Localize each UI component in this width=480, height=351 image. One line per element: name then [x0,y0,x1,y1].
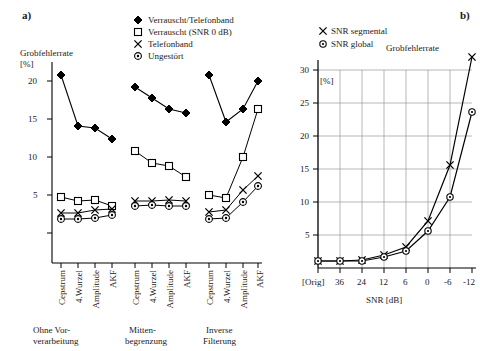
panel-b-ylabel-line2: [%] [320,76,334,86]
panel-a-ylabel-line1: Grobfehlerrate [20,48,73,58]
legend-item-verrauscht-snr0: Verrauscht (SNR 0 dB) [148,27,232,37]
panel-b-xtick-orig: [Orig] [302,277,325,287]
group-caption-3-line2: Filterung [203,336,236,346]
panel-b-xtick-0: 0 [425,277,430,287]
legend-item-snr-global: SNR global [331,39,373,49]
xtick-g2-akf: AKF [182,270,192,288]
panel-a-tag: a) [22,10,31,20]
panel-b-xtick-minus12: -12 [463,277,475,287]
group-caption-1-line2: verarbeitung [33,336,78,346]
legend-item-telefonband: Telefonband [148,39,193,49]
xtick-g1-akf: AKF [108,270,118,288]
panel-b-tag: b) [460,10,470,20]
panel-b-ytick-20: 20 [300,131,309,141]
panel-a-ytick-20: 20 [28,76,37,86]
chart-panel-a: a) Grobfehlerrate [%] Verrauscht/Telefon… [0,0,300,351]
panel-a-ytick-5: 5 [33,190,38,200]
panel-b-xtick-36: 36 [335,277,344,287]
panel-b-ylabel-line1: Grobfehlerrate [386,43,439,53]
panel-b-ytick-10: 10 [300,197,309,207]
chart-panel-b: b) SNR segmental SNR global Grobfehlerra… [300,0,480,351]
panel-b-xtick-6: 6 [403,277,408,287]
legend-item-snr-segmental: SNR segmental [331,26,387,36]
legend-item-ungestoert: Ungestört [148,51,184,61]
panel-b-xtick-minus6: -6 [444,277,452,287]
group-caption-3-line1: Inverse [206,325,233,335]
panel-b-ytick-15: 15 [300,164,309,174]
xtick-g3-akf: AKF [255,270,265,288]
legend-item-verrauscht-telefonband: Verrauscht/Telefonband [148,15,234,25]
xtick-g3-cepstrum: Cepstrum [205,270,215,305]
group-caption-1-line1: Ohne Vor- [33,325,70,335]
panel-b-xlabel: SNR [dB] [366,295,402,305]
panel-b-xtick-12: 12 [379,277,388,287]
xtick-g1-cepstrum: Cepstrum [57,270,67,305]
xtick-g2-amplitude: Amplitude [165,270,175,309]
panel-b-ytick-5: 5 [305,230,310,240]
xtick-g2-cepstrum: Cepstrum [131,270,141,305]
xtick-g1-4wurzel: 4.Wurzel [74,270,84,303]
xtick-g3-4wurzel: 4.Wurzel [222,270,232,303]
panel-b-xtick-24: 24 [357,277,366,287]
panel-a-ytick-10: 10 [28,152,37,162]
panel-b-ytick-25: 25 [300,98,309,108]
group-caption-2-line1: Mitten- [129,325,156,335]
xtick-g1-amplitude: Amplitude [91,270,101,309]
group-caption-2-line2: begrenzung [125,336,167,346]
xtick-g2-4wurzel: 4.Wurzel [148,270,158,303]
panel-b-ytick-30: 30 [300,65,309,75]
panel-a-ylabel-line2: [%] [20,59,34,69]
panel-a-ytick-15: 15 [28,114,37,124]
xtick-g3-amplitude: Amplitude [239,270,249,309]
